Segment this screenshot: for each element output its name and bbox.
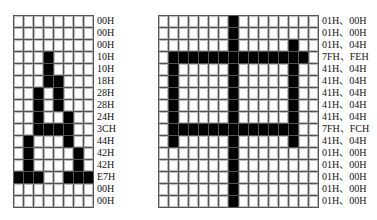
row-hex-code: 00H [97, 15, 116, 27]
pixel-off [309, 16, 318, 27]
pixel-off [169, 148, 178, 159]
pixel-off [64, 52, 73, 63]
pixel-off [299, 100, 308, 111]
pixel-off [74, 196, 83, 207]
pixel-off [249, 172, 258, 183]
pixel-off [279, 112, 288, 123]
pixel-off [189, 136, 198, 147]
pixel-off [44, 16, 53, 27]
pixel-off [269, 172, 278, 183]
pixel-off [84, 100, 93, 111]
pixel-off [279, 100, 288, 111]
pixel-off [269, 100, 278, 111]
row-hex-code: 01H、00H [322, 15, 369, 27]
pixel-on [24, 172, 33, 183]
pixel-off [249, 40, 258, 51]
pixel-off [169, 160, 178, 171]
pixel-off [219, 40, 228, 51]
pixel-off [24, 16, 33, 27]
pixel-off [64, 184, 73, 195]
pixel-on [54, 88, 63, 99]
pixel-on [169, 124, 178, 135]
pixel-off [34, 40, 43, 51]
pixel-off [239, 40, 248, 51]
pixel-off [219, 196, 228, 207]
pixel-off [199, 148, 208, 159]
pixel-off [209, 28, 218, 39]
pixel-off [239, 184, 248, 195]
pixel-off [14, 196, 23, 207]
pixel-off [219, 136, 228, 147]
pixel-on [169, 76, 178, 87]
pixel-off [159, 124, 168, 135]
pixel-off [179, 172, 188, 183]
pixel-on [24, 160, 33, 171]
pixel-on [259, 52, 268, 63]
pixel-off [239, 88, 248, 99]
pixel-on [229, 196, 238, 207]
pixel-off [209, 184, 218, 195]
pixel-off [299, 76, 308, 87]
pixel-off [239, 160, 248, 171]
dot-matrix-grid-chinese-zhong [158, 15, 319, 208]
pixel-off [249, 100, 258, 111]
pixel-off [209, 40, 218, 51]
pixel-off [279, 148, 288, 159]
pixel-on [289, 76, 298, 87]
row-hex-code: 00H [97, 183, 116, 195]
pixel-off [84, 196, 93, 207]
pixel-off [54, 148, 63, 159]
pixel-off [239, 196, 248, 207]
pixel-on [229, 52, 238, 63]
pixel-off [189, 88, 198, 99]
pixel-off [209, 100, 218, 111]
pixel-off [54, 172, 63, 183]
pixel-off [249, 196, 258, 207]
pixel-off [54, 40, 63, 51]
pixel-off [64, 88, 73, 99]
row-hex-code: 41H、04H [322, 135, 369, 147]
pixel-on [229, 88, 238, 99]
pixel-off [159, 64, 168, 75]
pixel-off [249, 76, 258, 87]
pixel-off [309, 100, 318, 111]
pixel-off [84, 148, 93, 159]
pixel-on [24, 136, 33, 147]
row-hex-code: 10H [97, 63, 116, 75]
row-hex-code: 41H、04H [322, 87, 369, 99]
pixel-off [309, 40, 318, 51]
pixel-off [64, 160, 73, 171]
pixel-off [259, 112, 268, 123]
pixel-off [299, 16, 308, 27]
pixel-off [54, 112, 63, 123]
pixel-off [189, 40, 198, 51]
pixel-off [209, 64, 218, 75]
pixel-on [239, 124, 248, 135]
pixel-off [189, 148, 198, 159]
pixel-off [259, 136, 268, 147]
pixel-off [14, 40, 23, 51]
row-hex-code: 42H [97, 147, 116, 159]
pixel-on [229, 100, 238, 111]
pixel-off [279, 160, 288, 171]
pixel-on [44, 64, 53, 75]
pixel-on [199, 124, 208, 135]
pixel-off [219, 88, 228, 99]
pixel-off [24, 64, 33, 75]
pixel-off [269, 136, 278, 147]
pixel-on [229, 172, 238, 183]
pixel-off [259, 172, 268, 183]
pixel-off [24, 76, 33, 87]
pixel-off [299, 184, 308, 195]
pixel-on [34, 172, 43, 183]
pixel-off [239, 100, 248, 111]
pixel-off [24, 184, 33, 195]
pixel-on [289, 64, 298, 75]
pixel-off [44, 184, 53, 195]
pixel-off [159, 160, 168, 171]
pixel-off [299, 136, 308, 147]
pixel-off [14, 124, 23, 135]
pixel-off [74, 88, 83, 99]
pixel-on [44, 124, 53, 135]
row-hex-code: 01H、00H [322, 27, 369, 39]
